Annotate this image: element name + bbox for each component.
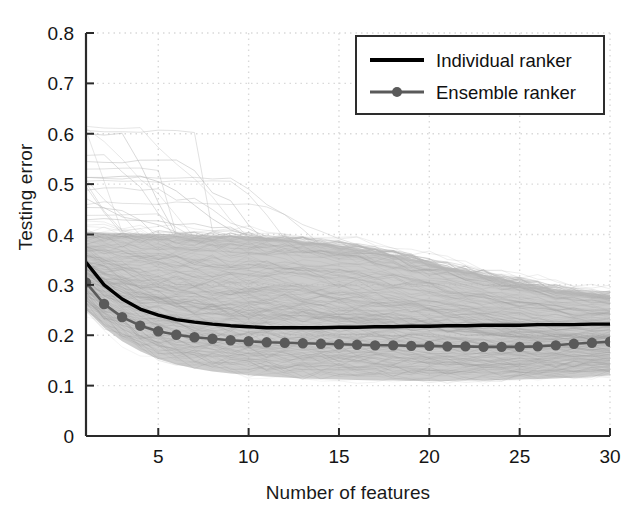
y-tick-label: 0.5 [48, 174, 74, 195]
legend-label-individual-ranker: Individual ranker [436, 50, 572, 71]
y-tick-label: 0.4 [48, 225, 75, 246]
legend-label-ensemble-ranker: Ensemble ranker [436, 82, 576, 103]
y-tick-label: 0.1 [48, 376, 74, 397]
x-tick-label: 15 [328, 446, 349, 467]
chart-legend[interactable]: Individual ranker Ensemble ranker [356, 36, 604, 114]
x-tick-label: 30 [599, 446, 620, 467]
x-tick-label: 5 [153, 446, 164, 467]
x-tick-label: 25 [509, 446, 530, 467]
y-tick-label: 0 [63, 426, 74, 447]
chart-figure: Testing error Number of features 00.10.2… [0, 0, 635, 520]
x-tick-label: 20 [419, 446, 440, 467]
y-tick-label: 0.6 [48, 124, 74, 145]
y-tick-label: 0.7 [48, 73, 74, 94]
legend-swatch-ensemble-ranker-marker [392, 87, 402, 97]
y-tick-label: 0.2 [48, 325, 74, 346]
plot-canvas: 00.10.20.30.40.50.60.70.8 51015202530 In… [0, 0, 635, 520]
y-tick-label: 0.3 [48, 275, 74, 296]
y-tick-label: 0.8 [48, 23, 74, 44]
x-tick-label: 10 [238, 446, 259, 467]
